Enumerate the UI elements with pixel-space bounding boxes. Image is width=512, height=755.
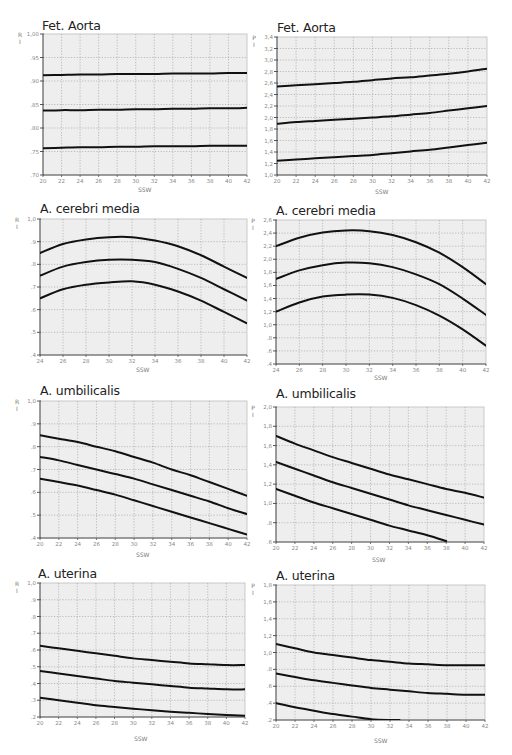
x-tick-label: 34	[406, 723, 413, 729]
y-tick-label: 1,6	[263, 599, 272, 605]
x-tick-label: 32	[387, 723, 394, 729]
x-tick-label: 40	[463, 723, 470, 729]
plot-area: 202224262830323436384042.2.4.6.81,01,21,…	[0, 0, 512, 755]
x-tick-label: 30	[368, 723, 375, 729]
x-tick-label: 38	[444, 723, 451, 729]
y-tick-label: .4	[267, 700, 273, 706]
y-tick-label: 1,0	[263, 650, 272, 656]
y-tick-label: 1,8	[263, 582, 272, 588]
y-tick-label: .8	[267, 666, 273, 672]
y-tick-label: .2	[267, 717, 272, 723]
x-tick-label: 42	[482, 723, 489, 729]
x-tick-label: 20	[273, 723, 280, 729]
x-tick-label: 22	[292, 723, 299, 729]
x-tick-label: 28	[349, 723, 356, 729]
x-tick-label: 24	[311, 723, 318, 729]
y-tick-label: 1,4	[263, 616, 272, 622]
x-tick-label: 26	[330, 723, 337, 729]
y-tick-label: .6	[267, 683, 273, 689]
y-tick-label: 1,2	[263, 633, 272, 639]
x-tick-label: 36	[425, 723, 432, 729]
